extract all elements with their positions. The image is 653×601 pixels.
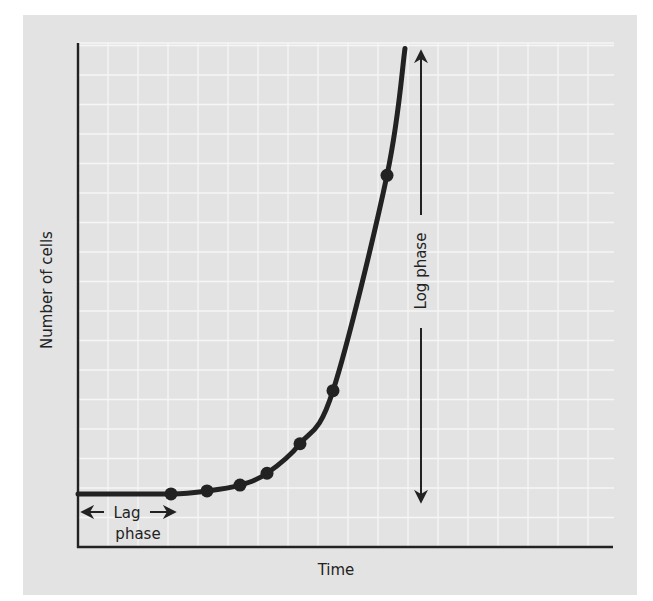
- y-axis-label: Number of cells: [38, 231, 56, 349]
- log-phase-label: Log phase: [412, 233, 430, 310]
- lag-phase-label-line1: Lag: [113, 504, 140, 522]
- data-point: [261, 467, 274, 480]
- growth-curve-chart: Log phase Lag phase Time Number of cells: [0, 0, 653, 601]
- data-point: [201, 484, 214, 497]
- chart-svg: Log phase Lag phase Time Number of cells: [0, 0, 653, 601]
- data-point: [294, 437, 307, 450]
- x-axis-label: Time: [317, 561, 355, 579]
- data-point: [234, 479, 247, 492]
- lag-phase-label-line2: phase: [115, 525, 160, 543]
- data-point: [381, 169, 394, 182]
- data-point: [327, 384, 340, 397]
- data-point: [165, 487, 178, 500]
